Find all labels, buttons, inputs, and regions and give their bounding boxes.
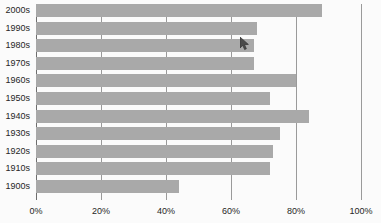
y-axis-label-1990s: 1990s [5,22,30,35]
bar-1990s [36,22,257,35]
bar-1980s [36,39,254,52]
bar-1910s [36,162,270,175]
y-axis-label-1980s: 1980s [5,39,30,52]
bar-row [36,110,361,123]
bar-1970s [36,57,254,70]
y-axis-label-1970s: 1970s [5,57,30,70]
bar-row [36,74,361,87]
y-axis-labels: 2000s1990s1980s1970s1960s1950s1940s1930s… [0,4,33,200]
bar-row [36,39,361,52]
bar-2000s [36,4,322,17]
bar-1950s [36,92,270,105]
y-axis-label-1920s: 1920s [5,145,30,158]
bar-1920s [36,145,273,158]
x-axis-label-100%: 100% [349,205,372,218]
x-axis-label-60%: 60% [222,205,240,218]
x-axis-labels: 0%20%40%60%80%100% [0,205,381,219]
y-axis-label-1910s: 1910s [5,162,30,175]
bar-1940s [36,110,309,123]
y-axis-label-1950s: 1950s [5,92,30,105]
x-axis-label-80%: 80% [287,205,305,218]
y-axis-label-1960s: 1960s [5,74,30,87]
bar-row [36,92,361,105]
bars-container [36,4,361,200]
bar-1900s [36,180,179,193]
bar-chart: 2000s1990s1980s1970s1960s1950s1940s1930s… [0,0,381,223]
bar-row [36,22,361,35]
bar-row [36,57,361,70]
y-axis-label-1940s: 1940s [5,110,30,123]
bar-1930s [36,127,280,140]
bar-row [36,180,361,193]
x-axis-label-20%: 20% [92,205,110,218]
bar-1960s [36,74,296,87]
x-axis-label-0%: 0% [29,205,42,218]
y-axis-label-1900s: 1900s [5,180,30,193]
bar-row [36,162,361,175]
bar-row [36,127,361,140]
x-axis-label-40%: 40% [157,205,175,218]
y-axis-label-2000s: 2000s [5,4,30,17]
gridline-100 [361,4,362,200]
bar-row [36,145,361,158]
y-axis-label-1930s: 1930s [5,127,30,140]
bar-row [36,4,361,17]
